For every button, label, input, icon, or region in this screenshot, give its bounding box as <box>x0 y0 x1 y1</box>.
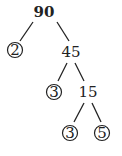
edge-15-5 <box>92 103 101 122</box>
node-45: 45 <box>61 43 80 61</box>
node-15: 15 <box>78 83 97 101</box>
node-3b: 3 <box>65 124 75 142</box>
edge-90-45 <box>57 22 69 41</box>
node-90: 90 <box>34 3 55 21</box>
edge-90-2 <box>20 22 33 41</box>
factor-tree: 90 2 45 3 15 3 5 <box>0 0 122 156</box>
edge-15-3 <box>74 103 84 122</box>
node-3a: 3 <box>49 83 59 101</box>
edge-45-3 <box>58 63 67 81</box>
edge-45-15 <box>75 63 84 81</box>
node-5: 5 <box>97 124 107 142</box>
node-2: 2 <box>10 41 20 59</box>
